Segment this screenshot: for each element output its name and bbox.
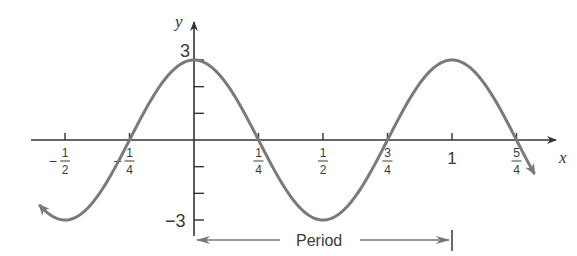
y-min-label: −3 (165, 211, 186, 231)
svg-text:−: − (49, 153, 57, 169)
x-tick-label: 12 (318, 146, 328, 177)
svg-text:1: 1 (320, 146, 327, 160)
y-max-label: 3 (180, 41, 190, 61)
svg-text:2: 2 (320, 163, 327, 177)
svg-text:1: 1 (126, 146, 133, 160)
x-tick-label: 12− (49, 146, 70, 177)
y-axis-label: y (173, 12, 183, 31)
cosine-graph: 12−14−141234154 y x 3 −3 Period (0, 0, 577, 256)
svg-text:3: 3 (384, 146, 391, 160)
svg-text:1: 1 (62, 146, 69, 160)
svg-text:1: 1 (447, 149, 456, 168)
x-tick-label: 34 (383, 146, 393, 177)
svg-text:4: 4 (513, 163, 520, 177)
period-label: Period (296, 232, 342, 249)
x-tick-label: 14 (254, 146, 264, 177)
svg-text:4: 4 (384, 163, 391, 177)
period-annotation: Period (197, 230, 452, 251)
x-tick-label: 54 (512, 146, 522, 177)
x-axis-label: x (558, 148, 567, 167)
svg-text:4: 4 (126, 163, 133, 177)
svg-text:2: 2 (62, 163, 69, 177)
x-tick-label: 1 (447, 149, 456, 168)
svg-text:4: 4 (255, 163, 262, 177)
